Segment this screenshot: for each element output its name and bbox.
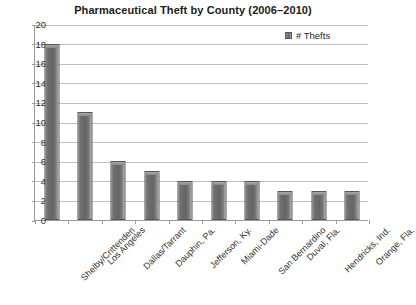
bar[interactable] — [144, 171, 159, 220]
bar-slot — [102, 25, 135, 220]
bar-slot — [235, 25, 268, 220]
bar[interactable] — [345, 191, 360, 220]
bar[interactable] — [111, 161, 126, 220]
plot-area: 02468101214161820 — [34, 25, 368, 221]
bar-slot — [269, 25, 302, 220]
bar[interactable] — [245, 181, 260, 220]
bar[interactable] — [278, 191, 293, 220]
bar-slot — [202, 25, 235, 220]
x-axis-tick-label: Shelby/Crittenden — [79, 225, 137, 283]
x-axis-tick — [369, 220, 370, 224]
bar-slot — [135, 25, 168, 220]
bar-slot — [336, 25, 369, 220]
bar-slot — [68, 25, 101, 220]
x-axis-labels: Shelby/CrittendenLos AngelesDallas/Tarra… — [34, 221, 368, 305]
bar-slot — [169, 25, 202, 220]
chart-legend: # Thefts — [283, 29, 332, 42]
legend-label-thefts: # Thefts — [296, 30, 330, 41]
bar[interactable] — [44, 44, 59, 220]
bar-slot — [302, 25, 335, 220]
bar[interactable] — [311, 191, 326, 220]
legend-swatch-thefts — [285, 32, 292, 39]
bar[interactable] — [211, 181, 226, 220]
bar-slot — [35, 25, 68, 220]
chart-title: Pharmaceutical Theft by County (2006–201… — [0, 4, 386, 16]
bar[interactable] — [78, 112, 93, 220]
bar[interactable] — [178, 181, 193, 220]
bar-series — [35, 25, 368, 220]
